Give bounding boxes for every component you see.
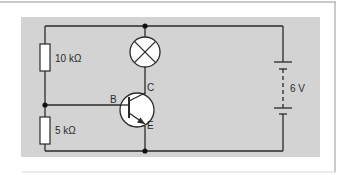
resistor-10k-label: 10 kΩ	[55, 53, 82, 64]
lamp-icon	[130, 37, 160, 67]
circuit-diagram: 10 kΩ 5 kΩ B C E 6 V	[0, 0, 342, 175]
resistor-5k-label: 5 kΩ	[55, 125, 76, 136]
battery-voltage-label: 6 V	[290, 83, 305, 94]
diagram-panel	[21, 17, 320, 157]
junction-dot-bottom	[142, 148, 147, 153]
junction-dot-base	[42, 102, 47, 107]
resistor-10k	[40, 44, 50, 71]
diagram-frame: 10 kΩ 5 kΩ B C E 6 V	[0, 0, 342, 175]
junction-dot-top	[142, 23, 147, 28]
transistor-base-label: B	[110, 94, 117, 105]
resistor-5k	[40, 117, 50, 144]
transistor-emitter-label: E	[147, 120, 154, 131]
transistor-collector-label: C	[147, 82, 154, 93]
